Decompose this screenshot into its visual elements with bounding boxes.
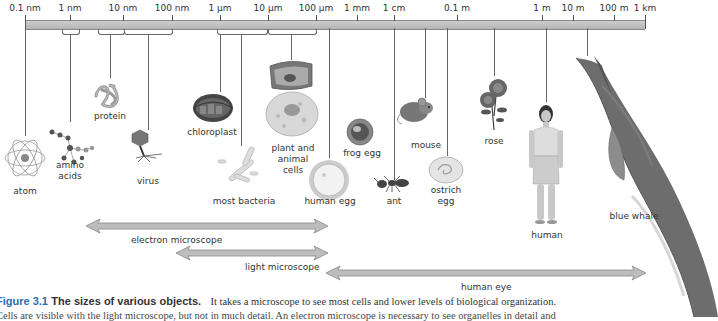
leader-ostrich-egg	[447, 28, 448, 156]
label-cells-line2: animal	[272, 154, 315, 165]
virus-icon	[130, 128, 166, 164]
figure-caption-body: It takes a microscope to see most cells …	[210, 296, 556, 307]
rose-icon	[476, 76, 510, 132]
tick	[220, 15, 221, 21]
light-microscope-arrow-icon	[176, 246, 330, 260]
label-cells-line3: cells	[272, 165, 315, 176]
label-blue-whale: blue whale	[610, 211, 659, 222]
label-ant: ant	[387, 196, 402, 207]
figure-caption: Figure 3.1 The sizes of various objects.…	[0, 295, 556, 307]
mouse-icon	[396, 96, 434, 126]
label-atom: atom	[13, 186, 36, 197]
leader-human	[546, 28, 547, 102]
plant-and-animal-cells-icon	[264, 58, 320, 144]
atom-icon	[3, 136, 47, 180]
tick-label-10m: 10 m	[561, 3, 584, 13]
leader-protein	[110, 34, 111, 78]
tick-label-0.1nm: 0.1 nm	[9, 3, 41, 13]
leader-virus	[148, 34, 149, 130]
label-amino-acids-line1: amino	[56, 160, 84, 171]
tick-label-1um: 1 µm	[208, 3, 231, 13]
tick-label-1km: 1 km	[634, 3, 657, 13]
label-ostrich-egg-line2: egg	[431, 196, 462, 207]
frog-egg-icon	[346, 118, 374, 146]
tick	[316, 15, 317, 21]
label-protein: protein	[94, 111, 126, 122]
bracket-bacteria	[217, 29, 268, 35]
tick	[357, 15, 358, 21]
label-chloroplast: chloroplast	[187, 127, 237, 138]
figure-number: Figure 3.1	[0, 295, 48, 307]
label-electron-microscope: electron microscope	[131, 235, 222, 245]
tick-label-1m: 1 m	[533, 3, 550, 13]
tick	[172, 15, 173, 21]
tick	[457, 15, 458, 21]
label-mouse: mouse	[411, 140, 441, 151]
leader-human-egg	[329, 28, 330, 158]
leader-bacteria	[241, 34, 242, 146]
label-most-bacteria: most bacteria	[213, 196, 275, 207]
leader-ant	[394, 28, 395, 180]
bracket-amino-acids	[62, 29, 80, 35]
label-cells-line1: plant and	[272, 143, 315, 154]
figure-caption-line2: Cells are visible with the light microsc…	[0, 310, 556, 321]
label-human-eye: human eye	[461, 282, 512, 292]
bracket-protein	[98, 29, 125, 35]
tick	[542, 15, 543, 21]
tick	[70, 15, 71, 21]
tick-label-100um: 100 µm	[299, 3, 334, 13]
ant-icon	[374, 174, 418, 194]
tick-label-10nm: 10 nm	[109, 3, 138, 13]
bracket-cells	[268, 29, 317, 35]
chloroplast-icon	[192, 92, 234, 124]
tick	[268, 15, 269, 21]
label-amino-acids-line2: acids	[56, 171, 84, 182]
tick-label-100nm: 100 nm	[155, 3, 190, 13]
figure-title: The sizes of various objects.	[51, 295, 201, 307]
electron-microscope-arrow-icon	[86, 219, 330, 233]
label-ostrich-egg: ostrich egg	[431, 185, 462, 207]
label-rose: rose	[484, 136, 503, 147]
tick	[614, 15, 615, 21]
leader-rose	[494, 28, 495, 76]
leader-amino-acids	[70, 34, 71, 122]
ostrich-egg-icon	[428, 156, 464, 184]
label-light-microscope: light microscope	[245, 262, 319, 272]
tick	[394, 15, 395, 21]
tick-label-100m: 100 m	[600, 3, 629, 13]
label-virus: virus	[137, 176, 159, 187]
leader-cells	[291, 34, 292, 60]
tick	[123, 15, 124, 21]
leader-atom	[25, 28, 26, 136]
tick	[25, 15, 26, 29]
tick-label-1cm: 1 cm	[383, 3, 405, 13]
label-human: human	[531, 230, 562, 241]
tick-label-0.1m: 0.1 m	[444, 3, 470, 13]
leader-mouse	[425, 28, 426, 98]
tick-label-1mm: 1 mm	[344, 3, 370, 13]
leader-blue-whale	[587, 28, 588, 56]
label-amino-acids: amino acids	[56, 160, 84, 182]
human-icon	[526, 104, 566, 228]
tick-label-10um: 10 µm	[254, 3, 283, 13]
protein-icon	[92, 82, 126, 110]
tick	[645, 15, 646, 29]
bacteria-icon	[214, 146, 266, 188]
tick-label-1nm: 1 nm	[58, 3, 81, 13]
label-ostrich-egg-line1: ostrich	[431, 185, 462, 196]
tick	[573, 15, 574, 21]
label-human-egg: human egg	[304, 196, 355, 207]
label-plant-and-animal-cells: plant and animal cells	[272, 143, 315, 176]
label-frog-egg: frog egg	[343, 148, 381, 159]
human-eye-arrow-icon	[326, 266, 648, 280]
leader-chloroplast	[220, 34, 221, 92]
